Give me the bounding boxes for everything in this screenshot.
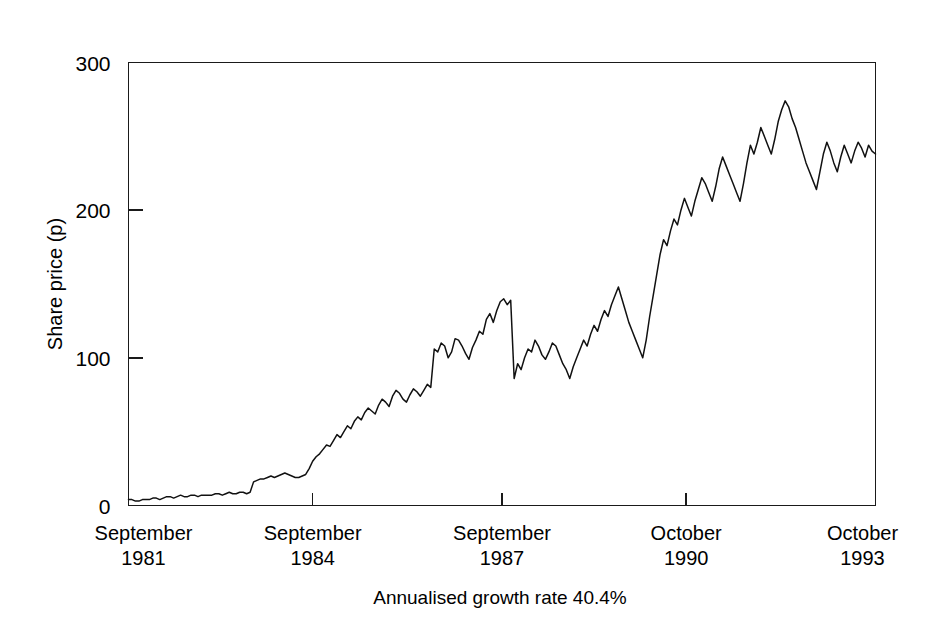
plot-box-outline (129, 63, 876, 506)
y-axis-tick-label: 300 (75, 52, 110, 75)
y-axis-tick-group (129, 210, 143, 358)
chart-figure: 0100200300 September1981September1984Sep… (0, 0, 938, 635)
share-price-line-chart: 0100200300 September1981September1984Sep… (0, 0, 938, 635)
x-axis-tick-label-year: 1987 (480, 547, 525, 569)
x-axis-tick-label-year: 1993 (840, 547, 885, 569)
y-axis-tick-label: 0 (99, 495, 111, 518)
chart-caption: Annualised growth rate 40.4% (373, 587, 627, 608)
x-axis-tick-label-year: 1990 (664, 547, 709, 569)
x-axis-tick-label-month: October (651, 522, 722, 544)
y-axis-tick-label-group: 0100200300 (75, 52, 110, 518)
x-axis-tick-group (313, 493, 687, 506)
x-axis-tick-label-month: September (264, 522, 362, 544)
x-axis-tick-label-month: September (453, 522, 551, 544)
x-axis-tick-label-month: September (95, 522, 193, 544)
x-axis-tick-label-year: 1984 (290, 547, 335, 569)
y-axis-tick-label: 100 (75, 347, 110, 370)
x-axis-tick-label-group: September1981September1984September1987O… (95, 522, 899, 569)
y-axis-tick-label: 200 (75, 199, 110, 222)
y-axis-title: Share price (p) (44, 218, 66, 350)
x-axis-tick-label-year: 1981 (121, 547, 166, 569)
plot-frame (129, 63, 876, 506)
data-series-group (129, 101, 876, 501)
series-line-0 (129, 101, 876, 501)
x-axis-tick-label-month: October (827, 522, 898, 544)
